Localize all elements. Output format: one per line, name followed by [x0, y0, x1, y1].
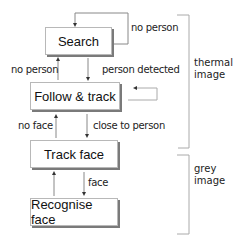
group-thermal-line1: thermal: [194, 57, 233, 69]
edge-label-search-to-follow: person detected: [102, 64, 179, 75]
node-trackface-label: Track face: [44, 147, 104, 162]
node-recognise-face: Recognise face: [30, 198, 118, 226]
edge-label-trackface-to-recognise: face: [88, 177, 108, 188]
group-grey-line2: image: [194, 175, 225, 187]
node-search: Search: [45, 27, 112, 55]
group-thermal-line2: image: [194, 69, 233, 81]
edge-label-trackface-to-follow: no face: [18, 120, 53, 131]
group-grey-line1: grey: [194, 163, 225, 175]
edge-label-follow-to-trackface: close to person: [93, 120, 165, 131]
group-label-thermal: thermal image: [194, 57, 233, 81]
edge-label-search-self: no person: [131, 22, 178, 33]
edge-label-follow-to-search: no person: [11, 64, 58, 75]
node-follow-track: Follow & track: [30, 82, 120, 110]
node-search-label: Search: [58, 34, 99, 49]
group-label-grey: grey image: [194, 163, 225, 187]
node-recognise-label: Recognise face: [31, 197, 117, 227]
node-track-face: Track face: [30, 140, 118, 168]
node-follow-label: Follow & track: [34, 89, 116, 104]
